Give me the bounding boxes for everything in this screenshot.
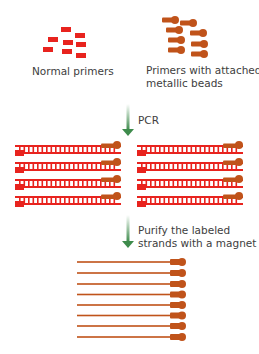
pcr-step-label: PCR xyxy=(138,114,159,127)
bead-primers-label-line2: metallic beads xyxy=(146,77,223,90)
normal-primers-label: Normal primers xyxy=(32,65,114,78)
pcr-diagram xyxy=(0,0,259,354)
bead-primers-label-line1: Primers with attached xyxy=(146,64,259,77)
purify-step-label-line1: Purify the labeled xyxy=(138,224,230,237)
down-arrow-icon xyxy=(122,215,134,248)
normal-primers-icon xyxy=(43,27,86,58)
bead-primers-icon xyxy=(162,16,208,58)
down-arrow-icon xyxy=(122,104,134,136)
purified-strands xyxy=(77,258,186,341)
purify-step-label-line2: strands with a magnet xyxy=(138,237,256,250)
pcr-products xyxy=(15,141,243,207)
